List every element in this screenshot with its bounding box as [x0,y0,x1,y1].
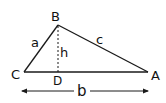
side-label-a: a [31,35,39,50]
triangle-diagram: B C A D a c h b [0,0,166,103]
vertex-label-d: D [53,74,62,88]
vertex-label-c: C [11,67,20,82]
side-label-c: c [96,32,103,47]
dimension-label-b: b [77,82,87,100]
vertex-label-a: A [151,68,160,83]
vertex-label-b: B [51,9,60,24]
altitude-label-h: h [60,45,68,60]
side-a [24,25,58,72]
